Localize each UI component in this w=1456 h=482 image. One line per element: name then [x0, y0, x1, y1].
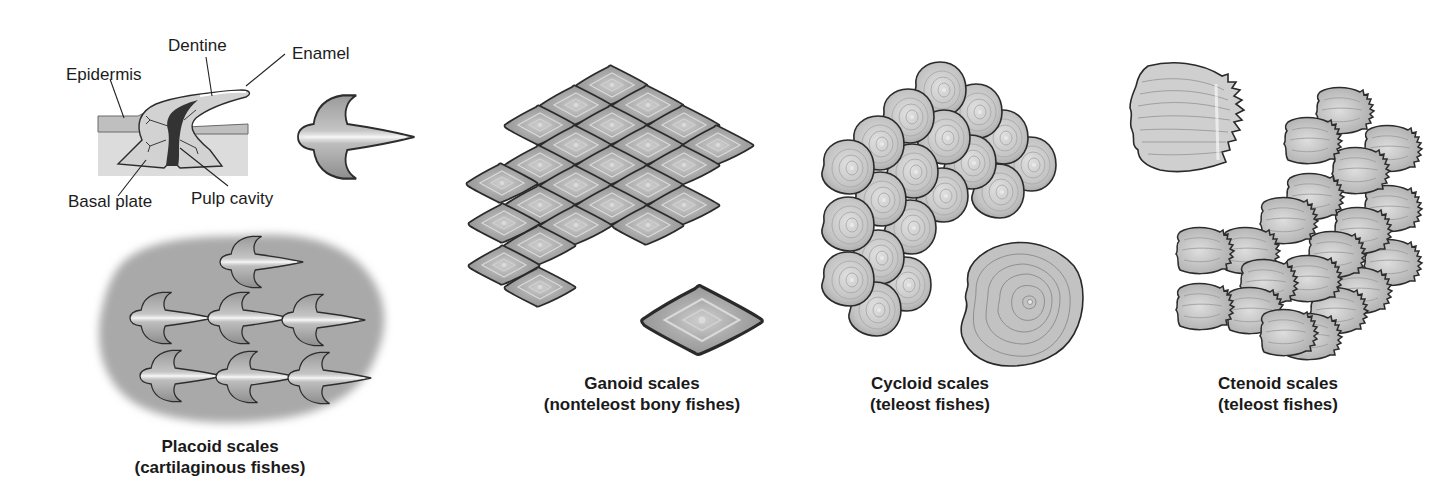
caption-ganoid-subtitle: (nonteleost bony fishes): [522, 394, 762, 415]
caption-ctenoid-subtitle: (teleost fishes): [1188, 394, 1368, 415]
caption-cycloid: Cycloid scales (teleost fishes): [840, 373, 1020, 415]
caption-ganoid: Ganoid scales (nonteleost bony fishes): [522, 373, 762, 415]
label-epidermis: Epidermis: [66, 65, 142, 84]
fish-scales-diagram: Dentine Enamel Epidermis Basal plate Pul…: [0, 0, 1456, 482]
label-basal-plate: Basal plate: [68, 192, 152, 211]
ganoid-scale-array: [467, 65, 754, 306]
caption-ganoid-title: Ganoid scales: [522, 373, 762, 394]
caption-placoid: Placoid scales (cartilaginous fishes): [120, 436, 320, 478]
caption-cycloid-title: Cycloid scales: [840, 373, 1020, 394]
caption-ctenoid-title: Ctenoid scales: [1188, 373, 1368, 394]
cycloid-single-scale: [961, 242, 1083, 366]
caption-placoid-subtitle: (cartilaginous fishes): [120, 457, 320, 478]
caption-placoid-title: Placoid scales: [120, 436, 320, 457]
label-pulp-cavity: Pulp cavity: [191, 189, 273, 208]
caption-ctenoid: Ctenoid scales (teleost fishes): [1188, 373, 1368, 415]
ctenoid-single-scale: [1130, 63, 1244, 172]
label-enamel: Enamel: [292, 44, 350, 63]
label-dentine: Dentine: [168, 36, 227, 55]
caption-cycloid-subtitle: (teleost fishes): [840, 394, 1020, 415]
placoid-skin-patch: [99, 235, 384, 423]
ganoid-single-scale: [642, 286, 763, 355]
placoid-single-scale: [298, 95, 414, 178]
